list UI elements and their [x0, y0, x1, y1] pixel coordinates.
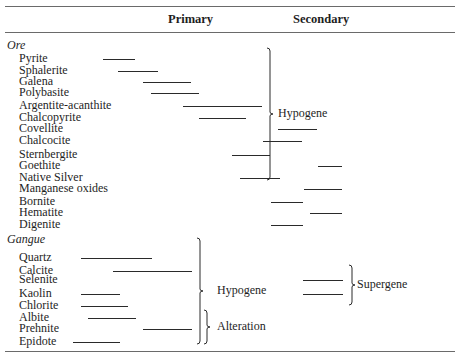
paragenetic-sequence-diagram: Primary Secondary Ore PyriteSphaleriteGa…: [0, 0, 459, 354]
bottom-rule: [5, 351, 455, 352]
brace-hypogene: [197, 238, 203, 344]
brace-supergene: [349, 265, 355, 305]
brace-alteration: [204, 310, 210, 344]
paragenesis-lines: [0, 0, 459, 354]
brace-hypogene: [267, 48, 273, 180]
